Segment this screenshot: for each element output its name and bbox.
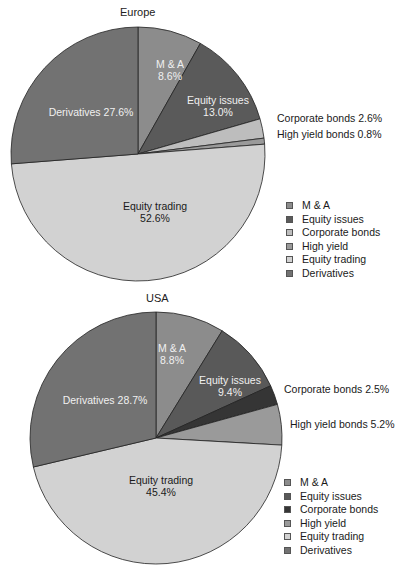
legend-swatch-icon — [284, 520, 291, 527]
legend-item: M & A — [284, 476, 378, 490]
legend-swatch-icon — [286, 229, 293, 236]
callout-high-yield: High yield bonds 5.2% — [290, 418, 394, 430]
legend-item: Derivatives — [286, 267, 380, 281]
legend-label: Equity issues — [300, 490, 362, 504]
slice-label-equity-trading: Equity trading 45.4% — [116, 474, 206, 498]
legend-item: Corporate bonds — [284, 503, 378, 517]
label-text: Derivatives 27.6% — [46, 106, 136, 118]
legend-item: High yield — [286, 240, 380, 254]
slice-label-equity-issues: Equity issues 9.4% — [190, 374, 270, 398]
label-value: 45.4% — [116, 486, 206, 498]
legend-label: Derivatives — [302, 267, 354, 281]
label-value: 52.6% — [110, 212, 200, 224]
label-text: M & A — [152, 342, 192, 354]
legend-swatch-icon — [284, 547, 291, 554]
legend-swatch-icon — [284, 533, 291, 540]
slice-label-derivatives: Derivatives 27.6% — [46, 106, 136, 118]
pie-slice-derivatives — [11, 27, 138, 164]
label-text: M & A — [148, 58, 192, 70]
legend-label: M & A — [302, 199, 330, 213]
legend-label: High yield — [300, 517, 346, 531]
legend-label: Corporate bonds — [302, 226, 380, 240]
label-value: 9.4% — [190, 386, 270, 398]
label-value: 13.0% — [178, 106, 258, 118]
label-value: 8.6% — [148, 70, 192, 82]
slice-label-derivatives: Derivatives 28.7% — [60, 394, 150, 406]
legend-item: High yield — [284, 517, 378, 531]
legend-label: M & A — [300, 476, 328, 490]
label-text: Derivatives 28.7% — [60, 394, 150, 406]
slice-label-equity-issues: Equity issues 13.0% — [178, 94, 258, 118]
legend-item: Equity issues — [286, 213, 380, 227]
label-text: Equity issues — [178, 94, 258, 106]
legend-item: Equity issues — [284, 490, 378, 504]
legend-label: Equity issues — [302, 213, 364, 227]
slice-label-ma: M & A 8.6% — [148, 58, 192, 82]
legend-item: Equity trading — [286, 253, 380, 267]
legend-swatch-icon — [284, 479, 291, 486]
legend-swatch-icon — [286, 202, 293, 209]
label-value: 8.8% — [152, 354, 192, 366]
slice-label-equity-trading: Equity trading 52.6% — [110, 200, 200, 224]
europe-legend: M & AEquity issuesCorporate bondsHigh yi… — [286, 199, 380, 280]
legend-label: Equity trading — [302, 253, 366, 267]
legend-item: M & A — [286, 199, 380, 213]
europe-chart: Europe M & A 8.6% Equity issues 13.0% De… — [0, 0, 402, 290]
legend-label: High yield — [302, 240, 348, 254]
label-text: Equity trading — [116, 474, 206, 486]
slice-label-ma: M & A 8.8% — [152, 342, 192, 366]
legend-item: Equity trading — [284, 530, 378, 544]
label-text: Equity issues — [190, 374, 270, 386]
legend-swatch-icon — [286, 256, 293, 263]
usa-legend: M & AEquity issuesCorporate bondsHigh yi… — [284, 476, 378, 557]
legend-label: Corporate bonds — [300, 503, 378, 517]
label-text: Equity trading — [110, 200, 200, 212]
legend-item: Derivatives — [284, 544, 378, 558]
legend-swatch-icon — [284, 506, 291, 513]
legend-swatch-icon — [286, 270, 293, 277]
legend-swatch-icon — [284, 493, 291, 500]
legend-item: Corporate bonds — [286, 226, 380, 240]
usa-chart: USA M & A 8.8% Equity issues 9.4% Deriva… — [0, 290, 402, 582]
callout-high-yield: High yield bonds 0.8% — [277, 128, 381, 140]
legend-label: Derivatives — [300, 544, 352, 558]
callout-corporate-bonds: Corporate bonds 2.5% — [284, 383, 389, 395]
legend-label: Equity trading — [300, 530, 364, 544]
legend-swatch-icon — [286, 243, 293, 250]
legend-swatch-icon — [286, 216, 293, 223]
callout-corporate-bonds: Corporate bonds 2.6% — [277, 112, 382, 124]
